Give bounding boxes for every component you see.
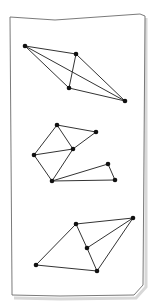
figure-canvas [0, 0, 158, 305]
graph-node [71, 147, 76, 152]
graph-node [23, 44, 28, 49]
graph-node [74, 52, 79, 57]
graph-node [94, 130, 99, 135]
graph-node [34, 263, 39, 268]
graph-node [131, 216, 136, 221]
graph-node [74, 222, 79, 227]
graph-diagram [0, 0, 158, 305]
graph-node [113, 178, 118, 183]
graph-node [55, 123, 60, 128]
graph-node [67, 86, 72, 91]
graph-node [50, 179, 55, 184]
graph-node [32, 153, 37, 158]
paper-outline [10, 14, 145, 296]
graph-node [95, 269, 100, 274]
graph-node [85, 246, 90, 251]
paper-sheet [10, 14, 146, 299]
graph-node [106, 162, 111, 167]
graph-node [123, 99, 128, 104]
